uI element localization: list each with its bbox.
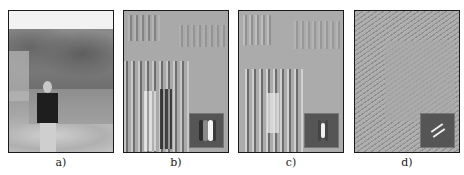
- kernel-band: [325, 120, 328, 141]
- panel-a-label: a): [8, 156, 114, 169]
- cliff: [9, 51, 29, 101]
- texture: [294, 21, 340, 49]
- panel-c-label: c): [238, 156, 344, 169]
- panel-a-photo: [8, 10, 114, 153]
- rocks: [9, 124, 113, 152]
- texture: [267, 93, 279, 133]
- texture: [124, 61, 189, 153]
- panel-c-gabor-response: [238, 10, 344, 153]
- panel-d-gabor-response: [354, 10, 460, 153]
- panel-d-label: d): [354, 156, 460, 169]
- texture: [385, 41, 455, 121]
- texture: [160, 89, 172, 149]
- gabor-kernel-inset: [304, 113, 339, 148]
- person-shirt: [37, 93, 58, 123]
- texture: [243, 15, 271, 45]
- person-legs: [40, 123, 56, 153]
- gabor-kernel-inset: [420, 113, 455, 148]
- panel-b-label: b): [123, 156, 229, 169]
- texture: [179, 25, 225, 47]
- gabor-kernel-inset: [189, 113, 224, 148]
- texture: [128, 15, 160, 41]
- person-head: [43, 81, 52, 93]
- panel-b-gabor-response: [123, 10, 229, 153]
- texture: [144, 91, 156, 151]
- kernel-band: [213, 120, 216, 141]
